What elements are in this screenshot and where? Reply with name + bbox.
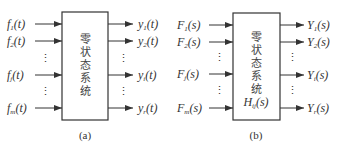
output-ellipsis-b-1: ⋮ xyxy=(287,51,298,63)
output-label-b-1: Y1(s) xyxy=(307,18,330,33)
output-ellipsis-a-1: ⋮ xyxy=(118,52,129,64)
input-label-a-j: fj(t) xyxy=(7,68,24,83)
output-label-b-2: Y2(s) xyxy=(307,35,330,50)
caption-b: (b) xyxy=(250,129,263,142)
caption-a: (a) xyxy=(79,129,92,142)
box-b-char-3: 系 xyxy=(251,70,262,83)
output-ellipsis-a-2: ⋮ xyxy=(118,85,129,97)
output-ellipsis-b-2: ⋮ xyxy=(287,84,298,96)
input-ellipsis-a-1: ⋮ xyxy=(40,52,51,64)
transfer-function-label: Hij(s) xyxy=(242,95,268,110)
diagram-a: 零 状 态 系 统 f1(t) f2(t) fj(t) fm(t) ⋮ ⋮ y1… xyxy=(7,12,158,142)
input-label-b-1: F1(s) xyxy=(176,18,201,33)
box-a-char-2: 态 xyxy=(80,59,91,72)
input-ellipsis-a-2: ⋮ xyxy=(40,85,51,97)
output-label-b-i: Yi(s) xyxy=(307,68,328,83)
box-b-char-2: 态 xyxy=(251,57,262,70)
input-label-b-j: Fj(s) xyxy=(176,67,199,82)
output-label-a-r: yr(t) xyxy=(137,101,157,116)
input-label-b-m: Fm(s) xyxy=(176,101,202,116)
box-a-char-4: 统 xyxy=(80,85,91,98)
box-a-char-0: 零 xyxy=(80,33,91,46)
diagram-b: 零 状 态 系 统 Hij(s) F1(s) F2(s) Fj(s) Fm(s)… xyxy=(176,13,330,142)
output-label-a-2: y2(t) xyxy=(137,34,158,49)
output-label-a-i: yi(t) xyxy=(137,68,157,83)
output-label-a-1: y1(t) xyxy=(137,17,158,32)
input-label-a-2: f2(t) xyxy=(7,34,25,49)
box-b-char-0: 零 xyxy=(251,31,262,44)
input-ellipsis-b-1: ⋮ xyxy=(214,51,225,63)
input-label-a-m: fm(t) xyxy=(7,101,27,116)
box-a-char-3: 系 xyxy=(80,72,91,85)
input-label-a-1: f1(t) xyxy=(7,17,25,32)
zero-state-system-diagrams: 零 状 态 系 统 f1(t) f2(t) fj(t) fm(t) ⋮ ⋮ y1… xyxy=(0,0,341,150)
box-b-char-1: 状 xyxy=(251,43,262,57)
output-label-b-r: Yr(s) xyxy=(307,101,329,116)
box-a-char-1: 状 xyxy=(80,45,91,59)
input-ellipsis-b-2: ⋮ xyxy=(214,84,225,96)
input-label-b-2: F2(s) xyxy=(176,35,201,50)
